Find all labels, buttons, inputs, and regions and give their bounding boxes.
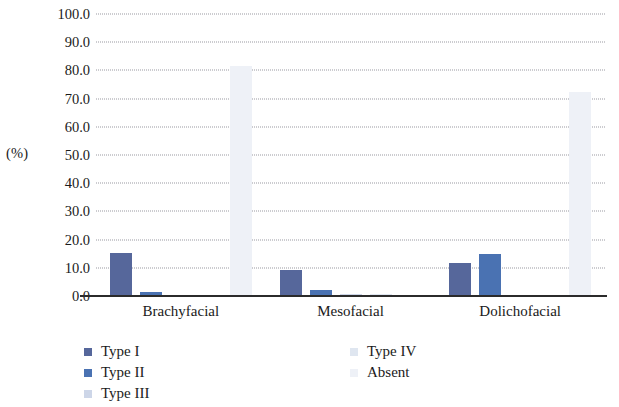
x-axis-category-label: Dolichofacial — [479, 303, 561, 320]
legend-swatch-icon — [84, 348, 92, 356]
legend-label: Absent — [367, 365, 410, 380]
bar — [479, 254, 501, 296]
bar — [569, 92, 591, 296]
legend-label: Type I — [101, 344, 140, 359]
legend-column-left: Type IType IIType III — [84, 341, 150, 404]
y-axis-tick-label: 20.0 — [38, 232, 90, 247]
y-axis-tick-label: 40.0 — [38, 176, 90, 191]
x-axis-line — [80, 295, 607, 297]
x-axis-labels: BrachyfacialMesofacialDolichofacial — [96, 303, 605, 327]
bar-chart: (%) 100.090.080.070.060.050.040.030.020.… — [0, 0, 619, 407]
y-axis-tick-label: 60.0 — [38, 120, 90, 135]
legend-label: Type III — [101, 386, 150, 401]
legend-label: Type IV — [367, 344, 416, 359]
legend-item: Type IV — [350, 341, 416, 362]
y-axis-tick-label: 70.0 — [38, 91, 90, 106]
y-axis: 100.090.080.070.060.050.040.030.020.010.… — [38, 0, 90, 310]
y-axis-tick-label: 90.0 — [38, 35, 90, 50]
legend-swatch-icon — [350, 348, 358, 356]
legend-column-right: Type IVAbsent — [350, 341, 416, 383]
y-axis-tick-label: 100.0 — [38, 7, 90, 22]
y-axis-tick-label: 30.0 — [38, 204, 90, 219]
legend-item: Type I — [84, 341, 150, 362]
legend-swatch-icon — [84, 390, 92, 398]
plot-area — [96, 14, 605, 296]
y-axis-tick-label: 80.0 — [38, 63, 90, 78]
legend-swatch-icon — [350, 369, 358, 377]
x-axis-category-label: Brachyfacial — [143, 303, 220, 320]
bar — [280, 270, 302, 296]
x-axis-category-label: Mesofacial — [317, 303, 384, 320]
bar — [110, 253, 132, 296]
legend-swatch-icon — [84, 369, 92, 377]
bar-group — [110, 14, 252, 296]
bar-group — [280, 14, 422, 296]
legend-item: Absent — [350, 362, 416, 383]
bar — [449, 263, 471, 296]
legend-item: Type II — [84, 362, 150, 383]
legend-label: Type II — [101, 365, 145, 380]
bar-group — [449, 14, 591, 296]
y-axis-tick-label: 10.0 — [38, 261, 90, 276]
legend-item: Type III — [84, 383, 150, 404]
y-axis-tick-label: 50.0 — [38, 148, 90, 163]
legend: Type IType IIType III Type IVAbsent — [84, 341, 554, 403]
bar — [230, 66, 252, 296]
